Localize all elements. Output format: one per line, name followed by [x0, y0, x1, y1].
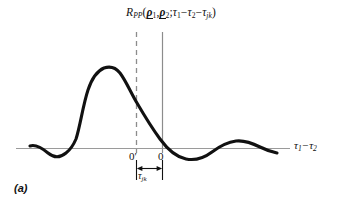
x-axis-label: τ1−τ2	[294, 139, 317, 153]
tick-label-origin: 0	[158, 150, 164, 162]
span-annotation-label: τjk	[138, 170, 147, 183]
x-axis-sub-2: 2	[313, 144, 317, 153]
tick-label-shifted-origin: 0′	[129, 150, 137, 162]
span-subscript: jk	[142, 175, 147, 183]
figure-container: RPP(ρ1,ρ2;τ1−τ2−τjk) 0′ 0 τ1−τ2 τjk (a)	[0, 0, 342, 208]
correlation-curve	[30, 67, 277, 159]
span-arrowhead-right	[157, 166, 163, 171]
correlation-plot-svg	[0, 0, 342, 208]
panel-caption: (a)	[14, 182, 27, 194]
